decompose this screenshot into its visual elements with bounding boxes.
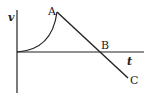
velocity-time-graph: v t A B C — [0, 0, 148, 100]
line-a-to-c — [57, 12, 128, 78]
point-c-label: C — [130, 74, 138, 87]
point-b-label: B — [101, 39, 109, 52]
curve-origin-to-a — [17, 12, 57, 52]
t-axis-label: t — [127, 55, 132, 68]
point-a-label: A — [47, 5, 57, 18]
v-axis-label: v — [8, 11, 15, 24]
